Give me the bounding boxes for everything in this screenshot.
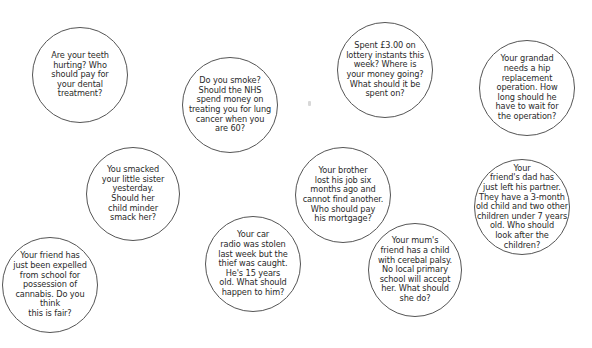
- bubble-text-smacking: You smacked your little sister yesterday…: [102, 165, 165, 223]
- bubble-car-radio: Your car radio was stolen last week but …: [205, 216, 301, 312]
- bubble-expelled: Your friend has just been expelled from …: [2, 237, 98, 333]
- diagram-canvas: Are your teeth hurting? Who should pay f…: [0, 0, 592, 348]
- bubble-text-expelled: Your friend has just been expelled from …: [13, 251, 87, 318]
- bubble-text-car-radio: Your car radio was stolen last week but …: [218, 230, 287, 297]
- bubble-text-dental: Are your teeth hurting? Who should pay f…: [51, 51, 109, 99]
- bubble-smoking: Do you smoke? Should the NHS spend money…: [182, 57, 278, 153]
- bubble-text-cerebral-palsy: Your mum's friend has a child with cereb…: [378, 236, 452, 303]
- bubble-cerebral-palsy: Your mum's friend has a child with cereb…: [368, 223, 462, 317]
- stray-mark: [308, 101, 311, 106]
- bubble-lottery: Spent £3.00 on lottery instants this wee…: [337, 22, 433, 118]
- bubble-childcare: Your friend's dad has just left his part…: [474, 159, 570, 255]
- bubble-text-lottery: Spent £3.00 on lottery instants this wee…: [346, 41, 424, 99]
- bubble-text-mortgage: Your brother lost his job six months ago…: [303, 166, 384, 224]
- bubble-smacking: You smacked your little sister yesterday…: [86, 147, 180, 241]
- bubble-text-childcare: Your friend's dad has just left his part…: [476, 164, 568, 250]
- bubble-text-hip-operation: Your grandad needs a hip replacement ope…: [496, 54, 559, 121]
- bubble-dental: Are your teeth hurting? Who should pay f…: [32, 27, 128, 123]
- bubble-text-smoking: Do you smoke? Should the NHS spend money…: [189, 76, 271, 134]
- bubble-mortgage: Your brother lost his job six months ago…: [295, 147, 391, 243]
- bubble-hip-operation: Your grandad needs a hip replacement ope…: [479, 40, 575, 136]
